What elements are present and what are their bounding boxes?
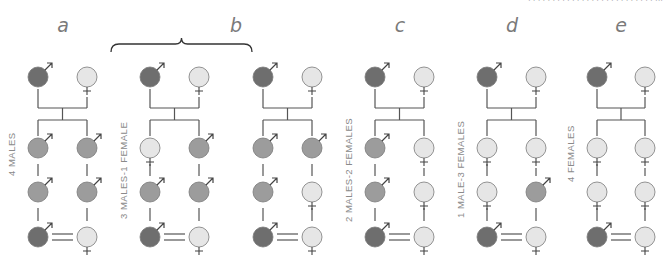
female-symbol-icon: [189, 67, 209, 95]
female-symbol-icon: [77, 227, 97, 255]
male-symbol-icon: [28, 223, 52, 247]
female-symbol-icon: [635, 67, 655, 95]
female-symbol-icon: [587, 182, 607, 210]
female-symbol-icon: [526, 67, 546, 95]
female-symbol-icon: [77, 67, 97, 95]
male-symbol-icon: [365, 178, 389, 202]
male-symbol-icon: [77, 178, 101, 202]
male-symbol-icon: [253, 63, 277, 87]
female-symbol-icon: [587, 138, 607, 166]
male-symbol-icon: [140, 63, 164, 87]
female-symbol-icon: [189, 227, 209, 255]
male-symbol-icon: [477, 223, 501, 247]
male-symbol-icon: [253, 178, 277, 202]
pedigree-diagram: [0, 0, 667, 261]
male-symbol-icon: [28, 178, 52, 202]
female-symbol-icon: [302, 227, 322, 255]
male-symbol-icon: [28, 134, 52, 158]
male-symbol-icon: [140, 223, 164, 247]
female-symbol-icon: [635, 182, 655, 210]
male-symbol-icon: [526, 178, 550, 202]
male-symbol-icon: [587, 223, 611, 247]
male-symbol-icon: [140, 178, 164, 202]
male-symbol-icon: [302, 134, 326, 158]
male-symbol-icon: [189, 134, 213, 158]
female-symbol-icon: [302, 182, 322, 210]
male-symbol-icon: [28, 63, 52, 87]
female-symbol-icon: [477, 182, 497, 210]
male-symbol-icon: [253, 223, 277, 247]
curly-brace: [111, 38, 252, 52]
male-symbol-icon: [365, 134, 389, 158]
female-symbol-icon: [635, 138, 655, 166]
female-symbol-icon: [414, 138, 434, 166]
female-symbol-icon: [635, 227, 655, 255]
female-symbol-icon: [414, 67, 434, 95]
male-symbol-icon: [365, 63, 389, 87]
female-symbol-icon: [302, 67, 322, 95]
male-symbol-icon: [587, 63, 611, 87]
female-symbol-icon: [526, 227, 546, 255]
female-symbol-icon: [477, 138, 497, 166]
male-symbol-icon: [253, 134, 277, 158]
male-symbol-icon: [365, 223, 389, 247]
female-symbol-icon: [414, 182, 434, 210]
male-symbol-icon: [189, 178, 213, 202]
male-symbol-icon: [477, 63, 501, 87]
female-symbol-icon: [414, 227, 434, 255]
female-symbol-icon: [140, 138, 160, 166]
female-symbol-icon: [526, 138, 546, 166]
male-symbol-icon: [77, 134, 101, 158]
